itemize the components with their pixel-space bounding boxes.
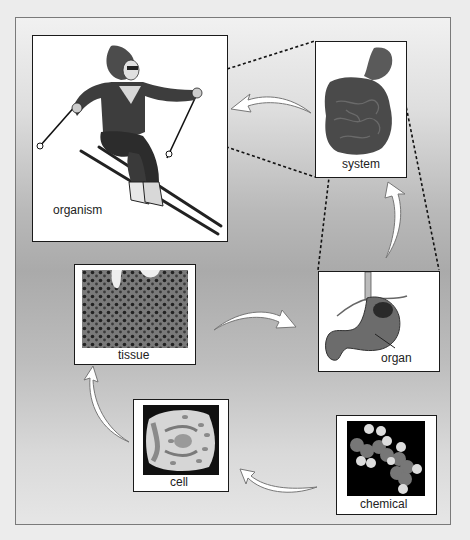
flow-arrows <box>0 0 470 540</box>
arrow-tissue-to-organ <box>214 310 296 330</box>
arrow-system-to-organism <box>231 94 311 113</box>
arrow-organ-to-system <box>385 182 405 258</box>
arrow-chemical-to-cell <box>240 469 317 492</box>
arrow-cell-to-tissue <box>84 366 129 442</box>
